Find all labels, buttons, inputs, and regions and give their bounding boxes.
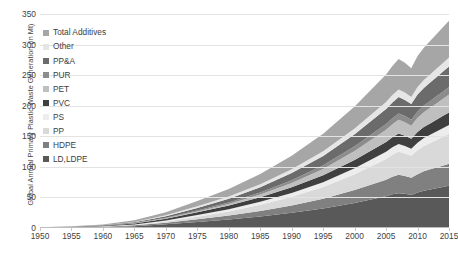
x-tick-label: 1990: [282, 231, 301, 241]
x-tick-label: 1960: [94, 231, 113, 241]
x-tick-label: 1995: [314, 231, 333, 241]
x-tick-label: 1965: [125, 231, 144, 241]
legend-swatch-icon: [43, 72, 49, 78]
y-tick-label: 300: [22, 40, 36, 50]
x-tick-label: 1970: [157, 231, 176, 241]
legend-label: PP&A: [53, 57, 75, 65]
legend-item[interactable]: PS: [43, 112, 106, 123]
legend-swatch-icon: [43, 58, 49, 64]
legend-label: PP: [53, 127, 64, 135]
x-tick-label: 2015: [440, 231, 458, 241]
legend-swatch-icon: [43, 156, 49, 162]
legend-label: PS: [53, 113, 64, 121]
legend-item[interactable]: Total Additives: [43, 27, 106, 38]
legend-label: PVC: [53, 99, 70, 107]
x-tick-label: 2000: [345, 231, 364, 241]
legend-label: Total Additives: [53, 28, 106, 36]
legend-item[interactable]: PP&A: [43, 55, 106, 66]
x-tick-label: 1955: [62, 231, 81, 241]
legend-item[interactable]: HDPE: [43, 140, 106, 151]
legend-item[interactable]: PVC: [43, 97, 106, 108]
y-tick-label: 200: [22, 101, 36, 111]
legend-item[interactable]: PP: [43, 126, 106, 137]
y-tick-label: 150: [22, 131, 36, 141]
chart-legend: Total AdditivesOtherPP&APURPETPVCPSPPHDP…: [43, 27, 106, 165]
legend-swatch-icon: [43, 114, 49, 120]
x-tick-label: 1975: [188, 231, 207, 241]
legend-label: PET: [53, 85, 69, 93]
x-tick-label: 1980: [219, 231, 238, 241]
y-tick-label: 50: [27, 192, 36, 202]
legend-item[interactable]: PUR: [43, 69, 106, 80]
legend-item[interactable]: LD,LDPE: [43, 154, 106, 165]
x-tick-label: 2005: [377, 231, 396, 241]
legend-item[interactable]: Other: [43, 41, 106, 52]
y-tick-label: 100: [22, 162, 36, 172]
y-tick-label: 250: [22, 70, 36, 80]
legend-swatch-icon: [43, 86, 49, 92]
legend-swatch-icon: [43, 100, 49, 106]
legend-label: HDPE: [53, 141, 76, 149]
legend-swatch-icon: [43, 128, 49, 134]
gridline: [40, 14, 449, 15]
axis-baseline: [40, 227, 449, 228]
legend-item[interactable]: PET: [43, 83, 106, 94]
x-tick-label: 1985: [251, 231, 270, 241]
legend-swatch-icon: [43, 142, 49, 148]
gridline: [40, 167, 449, 168]
y-tick-label: 350: [22, 9, 36, 19]
legend-label: PUR: [53, 71, 71, 79]
legend-label: Other: [53, 42, 74, 50]
legend-swatch-icon: [43, 44, 49, 50]
gridline: [40, 197, 449, 198]
x-axis-ticks: 1950195519601965197019751980198519901995…: [40, 231, 449, 251]
x-tick-label: 1950: [31, 231, 50, 241]
x-tick-label: 2010: [408, 231, 427, 241]
legend-label: LD,LDPE: [53, 155, 88, 163]
legend-swatch-icon: [43, 30, 49, 36]
